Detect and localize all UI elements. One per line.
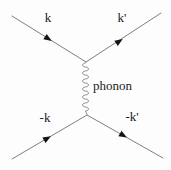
label-minus-k-prime: -k' <box>125 109 138 124</box>
arrowhead-icon-minus-k <box>42 133 52 143</box>
arrowhead-icon-minus-k-prime <box>118 131 128 141</box>
arrowhead-icon-k <box>43 34 53 44</box>
phonon-exchange-diagram: k k' phonon -k -k' <box>0 0 171 170</box>
label-minus-k: -k <box>40 110 51 125</box>
label-k-prime: k' <box>118 10 127 25</box>
label-k: k <box>45 10 52 25</box>
feynman-diagram-canvas: k k' phonon -k -k' <box>0 0 171 170</box>
label-phonon: phonon <box>93 78 133 93</box>
phonon-propagator-wavy-line <box>83 63 89 115</box>
